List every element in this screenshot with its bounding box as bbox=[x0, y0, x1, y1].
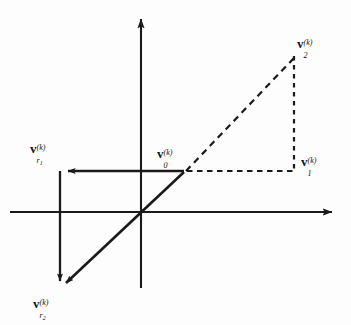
vector-diagram-figure: v(k)r1 v(k)r2 v(k)0 v(k)1 v(k)2 bbox=[0, 0, 351, 325]
label-v-1-sub: 1 bbox=[308, 170, 312, 178]
dashed-hypotenuse bbox=[186, 58, 294, 171]
label-v-r2-sub: r2 bbox=[40, 312, 46, 321]
label-v-0-sup: (k) bbox=[164, 149, 173, 157]
label-v-1-sup: (k) bbox=[308, 157, 317, 165]
label-v-2-sup: (k) bbox=[304, 39, 313, 47]
label-v-r1-sup: (k) bbox=[37, 144, 46, 152]
solid-diagonal-vector bbox=[66, 172, 184, 283]
label-v-r2: v(k)r2 bbox=[33, 297, 40, 310]
label-v-2-sub: 2 bbox=[304, 52, 308, 60]
label-v-2: v(k)2 bbox=[297, 37, 304, 50]
label-v-r2-sup: (k) bbox=[40, 299, 49, 307]
label-v-0: v(k)0 bbox=[157, 147, 164, 160]
label-v-0-sub: 0 bbox=[164, 162, 168, 170]
label-v-r1: v(k)r1 bbox=[30, 142, 37, 155]
label-v-r1-sub: r1 bbox=[37, 157, 43, 166]
label-v-1: v(k)1 bbox=[301, 155, 308, 168]
solid-vectors-group bbox=[60, 171, 184, 283]
dashed-triangle-group bbox=[186, 56, 295, 171]
